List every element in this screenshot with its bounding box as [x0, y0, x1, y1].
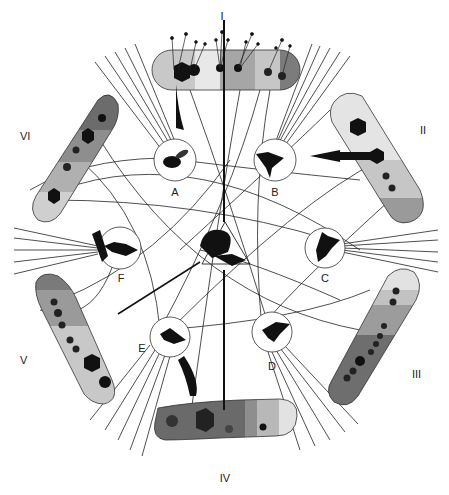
- band-label-II: II: [420, 124, 426, 136]
- band-III: [320, 260, 430, 415]
- arrow-icon: [176, 84, 184, 130]
- animal-C: C: [305, 228, 345, 284]
- arrow-icon: [310, 150, 340, 162]
- band-VI: [28, 86, 128, 232]
- band-label-III: III: [412, 368, 421, 380]
- band-label-VI: VI: [20, 130, 30, 142]
- animal-label-A: A: [171, 186, 179, 198]
- animal-label-D: D: [268, 360, 276, 372]
- animal-D: D: [252, 312, 292, 372]
- animal-A: A: [154, 139, 196, 198]
- animal-E: E: [138, 317, 190, 357]
- leaf-icon: [200, 230, 231, 258]
- band-IV: [150, 356, 304, 445]
- band-V: [28, 268, 128, 416]
- animal-label-E: E: [138, 342, 145, 354]
- band-II: [310, 80, 440, 238]
- plant-node-large: [174, 62, 190, 82]
- interaction-network-diagram: I II III: [0, 0, 449, 495]
- animal-label-F: F: [118, 272, 125, 284]
- band-label-V: V: [20, 354, 28, 366]
- animal-B: B: [254, 139, 296, 198]
- animal-label-B: B: [271, 186, 278, 198]
- animal-F: F: [92, 227, 141, 284]
- band-label-IV: IV: [220, 472, 231, 484]
- band-I: [150, 30, 305, 130]
- arrow-icon: [178, 356, 197, 396]
- animal-label-C: C: [321, 272, 329, 284]
